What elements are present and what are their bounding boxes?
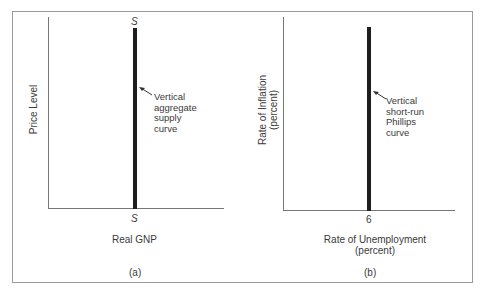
phillips-curve	[367, 27, 371, 211]
panel-b-x-label: Rate of Unemployment (percent)	[310, 234, 440, 256]
curve-top-label: S	[131, 16, 138, 27]
panel-b-y-label: Rate of Inflation (percent)	[257, 65, 279, 155]
panel-b-y-axis	[283, 17, 284, 211]
panel-a-caption: (a)	[129, 267, 141, 278]
x-tick-label: 6	[366, 214, 372, 225]
panel-a-y-label: Price Level	[28, 75, 39, 145]
panel-b-annotation: Vertical short-run Phillips curve	[386, 96, 424, 138]
panel-a-annotation: Vertical aggregate supply curve	[154, 92, 197, 134]
panel-a-x-label: Real GNP	[112, 234, 157, 245]
aggregate-supply-curve	[133, 28, 137, 209]
curve-bottom-label: S	[131, 213, 138, 224]
panel-b-caption: (b)	[364, 267, 376, 278]
panel-a-y-axis	[48, 17, 49, 209]
